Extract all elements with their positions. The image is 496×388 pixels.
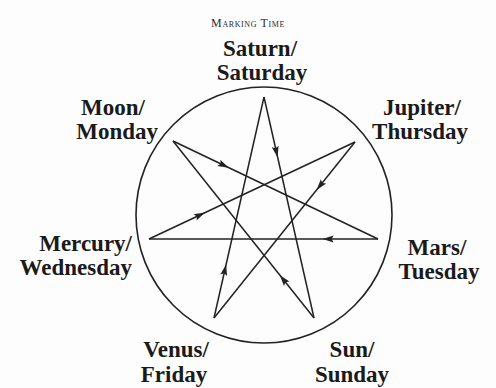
arrowhead-icon [220, 264, 229, 276]
label-mercury: Mercury/ Wednesday [20, 231, 133, 280]
label-day-thursday: Thursday [372, 119, 468, 144]
label-day-monday: Monday [76, 119, 158, 144]
label-sun: Sun/ Sunday [315, 337, 390, 387]
arrowhead-icon [217, 160, 230, 171]
label-day-friday: Friday [141, 362, 208, 387]
edge-venus-to-saturn [214, 97, 264, 318]
label-mars: Mars/ Tuesday [399, 235, 480, 284]
label-day-sunday: Sunday [315, 362, 390, 387]
label-moon: Moon/ Monday [76, 95, 158, 144]
edge-jupiter-to-venus [214, 142, 355, 318]
outer-circle [136, 87, 392, 343]
figure-title: Marking Time [211, 16, 285, 30]
label-day-saturday: Saturday [217, 60, 308, 85]
label-planet-venus: Venus/ [143, 337, 209, 362]
label-planet-mars: Mars/ [408, 235, 467, 260]
edge-mercury-to-jupiter [149, 142, 355, 239]
label-planet-moon: Moon/ [81, 95, 146, 120]
edge-sun-to-moon [173, 141, 314, 318]
label-planet-mercury: Mercury/ [39, 231, 132, 256]
edge-moon-to-mars [173, 141, 378, 239]
heptagram-diagram: Marking Time Saturn/ Saturday Jupiter/ T… [0, 0, 496, 388]
heptagram-edges [149, 97, 378, 318]
label-jupiter: Jupiter/ Thursday [372, 95, 468, 144]
arrowhead-icon [194, 209, 207, 220]
edge-saturn-to-sun [264, 97, 314, 318]
label-planet-jupiter: Jupiter/ [383, 95, 462, 120]
label-venus: Venus/ Friday [141, 337, 210, 387]
label-planet-saturn: Saturn/ [223, 36, 298, 61]
direction-arrows [194, 146, 334, 286]
label-planet-sun: Sun/ [330, 337, 375, 362]
label-day-wednesday: Wednesday [20, 255, 133, 280]
label-saturn: Saturn/ Saturday [217, 36, 308, 85]
arrowhead-icon [272, 146, 281, 158]
label-day-tuesday: Tuesday [399, 259, 480, 284]
